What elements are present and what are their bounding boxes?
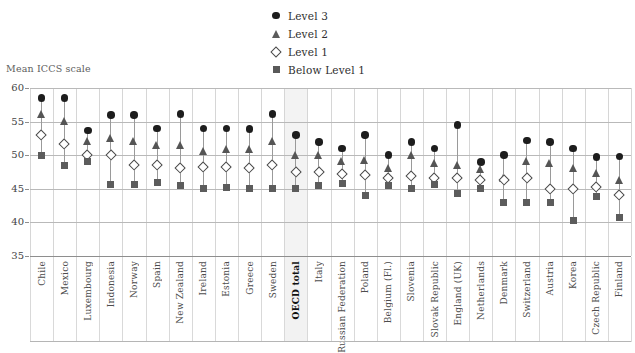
y-tick-label-35: 35 — [0, 250, 24, 261]
category-separator-xaxis — [608, 257, 609, 342]
y-tick-mark — [25, 256, 29, 257]
category-separator-xaxis — [122, 257, 123, 342]
connector-line — [295, 135, 296, 189]
data-point — [107, 111, 115, 119]
data-point — [405, 171, 417, 183]
data-point — [223, 125, 231, 133]
category-separator — [30, 88, 31, 256]
data-point — [107, 181, 114, 188]
data-point — [105, 149, 117, 161]
category-separator — [261, 88, 262, 256]
data-point — [476, 165, 484, 173]
category-separator-xaxis — [307, 257, 308, 342]
category-separator — [631, 88, 632, 256]
legend-label-level-1: Level 1 — [288, 46, 328, 58]
data-point — [385, 151, 393, 159]
data-point — [130, 111, 138, 119]
y-tick-mark — [25, 189, 29, 190]
legend-item-level-2: Level 2 — [268, 26, 365, 41]
category-separator — [99, 88, 100, 256]
category-separator-xaxis — [331, 257, 332, 342]
connector-line — [272, 114, 273, 189]
data-point — [616, 153, 624, 161]
category-separator-xaxis — [99, 257, 100, 342]
data-point — [292, 131, 300, 139]
data-point — [61, 162, 68, 169]
data-point — [131, 181, 138, 188]
data-point — [37, 110, 45, 118]
data-point — [244, 163, 256, 175]
data-point — [362, 192, 369, 199]
x-axis-label: Netherlands — [476, 261, 486, 320]
data-point — [431, 145, 439, 153]
data-point — [361, 131, 369, 139]
y-tick-label-45: 45 — [0, 183, 24, 194]
data-point — [569, 145, 577, 153]
data-point — [246, 125, 254, 133]
category-separator — [215, 88, 216, 256]
data-point — [593, 193, 600, 200]
x-axis-label: Norway — [129, 261, 139, 298]
data-point — [477, 185, 484, 192]
data-point — [522, 157, 530, 165]
category-separator-xaxis — [30, 257, 31, 342]
connector-line — [318, 142, 319, 186]
data-point — [338, 145, 346, 153]
data-point — [521, 173, 533, 185]
data-point — [268, 137, 276, 145]
category-separator — [585, 88, 586, 256]
connector-line — [226, 128, 227, 187]
data-point — [544, 183, 556, 195]
data-point — [613, 190, 625, 202]
connector-line — [64, 98, 65, 165]
data-point — [359, 169, 371, 181]
data-point — [60, 117, 68, 125]
legend-item-level-3: Level 3 — [268, 8, 365, 23]
data-point — [430, 159, 438, 167]
category-separator — [492, 88, 493, 256]
data-point — [129, 137, 137, 145]
connector-line — [365, 135, 366, 195]
data-point — [408, 138, 416, 146]
data-point — [431, 181, 438, 188]
x-axis-label: Chile — [37, 261, 47, 286]
category-separator-xaxis — [146, 257, 147, 342]
data-point — [128, 159, 140, 171]
y-tick-label-55: 55 — [0, 116, 24, 127]
data-point — [59, 138, 71, 150]
x-axis-label: OECD total — [291, 261, 301, 319]
x-axis-label: Estonia — [221, 261, 231, 297]
data-point — [546, 138, 554, 146]
x-axis-label: Czech Republic — [591, 261, 601, 335]
category-separator-xaxis — [562, 257, 563, 342]
x-axis-label: Denmark — [499, 261, 509, 304]
data-point — [200, 185, 207, 192]
plot-area: 354045505560 — [30, 88, 631, 256]
data-point — [246, 185, 253, 192]
x-axis-label: Slovak Republic — [430, 261, 440, 337]
data-point — [152, 141, 160, 149]
category-separator — [446, 88, 447, 256]
category-separator — [562, 88, 563, 256]
data-point — [592, 169, 600, 177]
data-point — [569, 164, 577, 172]
category-separator-xaxis — [446, 257, 447, 342]
data-point — [291, 151, 299, 159]
x-axis-label: Indonesia — [106, 261, 116, 307]
connector-line — [203, 128, 204, 188]
category-separator — [377, 88, 378, 256]
data-point — [38, 152, 45, 159]
data-point — [523, 137, 531, 145]
data-point — [36, 129, 48, 141]
data-point — [106, 134, 114, 142]
category-separator — [238, 88, 239, 256]
data-point — [500, 199, 507, 206]
data-point — [593, 153, 601, 161]
x-axis-label: Greece — [245, 261, 255, 295]
category-separator — [76, 88, 77, 256]
category-separator — [192, 88, 193, 256]
connector-line — [619, 157, 620, 217]
x-axis-label: Slovenia — [406, 261, 416, 302]
x-axis-label: Mexico — [60, 261, 70, 295]
open-diamond-icon — [268, 48, 284, 56]
